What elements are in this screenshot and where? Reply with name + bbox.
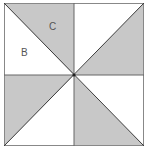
center-point [72, 73, 75, 76]
label-b: B [21, 47, 28, 58]
label-c: C [49, 21, 56, 32]
pinwheel-diagram: C B [0, 0, 148, 153]
